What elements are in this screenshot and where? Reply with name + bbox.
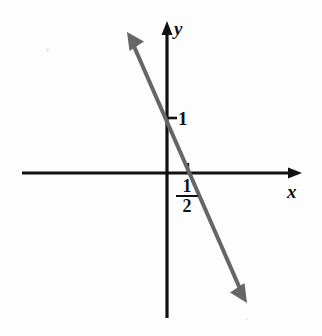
fraction-numerator: 1 — [176, 178, 198, 194]
x-axis-arrowhead-icon — [288, 168, 302, 179]
y-intercept-tick-label: 1 — [178, 109, 188, 128]
fraction-denominator: 2 — [176, 198, 198, 214]
y-axis-arrowhead-icon — [162, 21, 173, 35]
x-axis-label: x — [287, 182, 297, 201]
x-intercept-tick-label: 1 2 — [176, 178, 198, 214]
plotted-line-segment — [133, 44, 241, 291]
y-axis — [162, 21, 173, 318]
y-axis-label: y — [174, 19, 182, 38]
plotted-line — [127, 32, 247, 303]
scan-speck — [246, 318, 248, 320]
x-axis — [22, 168, 302, 179]
scan-speck — [46, 48, 49, 52]
graph-figure: y x 1 1 2 — [0, 0, 322, 336]
